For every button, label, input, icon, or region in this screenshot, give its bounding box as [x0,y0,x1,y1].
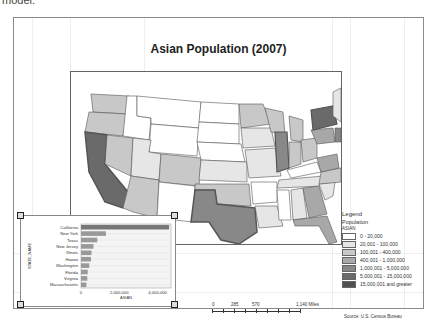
legend-row: 400,001 - 1,000,000 [342,256,412,264]
map-legend[interactable]: Legend Population ASIAN 0 - 20,00020,001… [342,211,412,288]
scale-tick [267,309,268,313]
legend-row: 0 - 20,000 [342,232,412,240]
source-text: Source: U.S. Census Bureau [344,314,402,319]
y-axis-label: STATE_NAME [27,243,32,269]
legend-label: 400,001 - 1,000,000 [360,257,405,263]
legend-row: 1,000,001 - 5,000,000 [342,264,412,272]
legend-swatch [342,257,356,264]
legend-row: 100,001 - 400,000 [342,248,412,256]
legend-label: 5,000,001 - 15,000,000 [360,273,412,279]
legend-swatch [342,273,356,280]
legend-label: 20,001 - 100,000 [360,241,398,247]
category-label: Florida [65,270,78,275]
legend-title: Legend [342,211,412,217]
category-label: Virginia [64,276,79,281]
state-michigan [289,116,303,142]
bar-new-york [81,231,106,236]
legend-label: 0 - 20,000 [360,233,383,239]
resize-handle-bottom-left[interactable] [17,301,24,308]
scale-label: 285 [231,302,239,307]
state-ohio [301,138,317,162]
legend-swatch [342,233,356,240]
legend-swatch [342,281,356,288]
scale-tick [212,309,213,313]
state-arkansas [251,182,277,204]
category-label: California [60,225,78,230]
scale-tick [300,309,301,313]
legend-label: 1,000,001 - 5,000,000 [360,265,409,271]
state-iowa [241,128,275,148]
graph-element[interactable]: CaliforniaNew YorkTexasNew JerseyIllinoi… [20,215,176,307]
scale-tick [278,309,279,313]
legend-label: 100,001 - 400,000 [360,249,401,255]
legend-swatch [342,249,356,256]
x-tick-label: 0 [80,290,83,295]
bar-new-jersey [81,244,93,249]
resize-handle-top-right[interactable] [171,212,178,219]
state-new-jersey [335,128,341,142]
scale-tick [223,309,224,313]
state-washington [91,94,129,114]
legend-field-name: ASIAN [342,226,412,231]
category-label: Illinois [66,250,78,255]
category-label: Hawaii [65,257,78,262]
category-label: Texas [67,238,78,243]
legend-layer-name: Population [342,219,412,225]
scale-tick [234,309,235,313]
bar-florida [81,270,88,275]
state-kansas [199,160,247,182]
scale-bar[interactable]: 0 285 570 1,140 Miles [212,302,302,314]
legend-row: 5,000,001 - 15,000,000 [342,272,412,280]
state-north-dakota [199,102,239,124]
state-wyoming [149,124,199,156]
state-minnesota [239,104,271,128]
bar-chart: CaliforniaNew YorkTexasNew JerseyIllinoi… [21,216,175,306]
scale-tick [289,309,290,313]
scale-label: 0 [212,302,215,307]
legend-swatch [342,265,356,272]
bar-hawaii [81,257,91,262]
resize-handle-bottom-right[interactable] [171,301,178,308]
state-mississippi [277,190,291,220]
category-label: New York [60,231,79,236]
category-label: New Jersey [56,244,79,249]
bar-virginia [81,276,87,281]
legend-row: 15,000,001 and greater [342,280,412,288]
resize-handle-top-left[interactable] [17,212,24,219]
state-florida [293,216,337,244]
x-axis-label: ASIAN [120,295,132,300]
state-south-dakota [197,122,239,144]
map-title: Asian Population (2007) [14,42,423,56]
top-text: model. [2,0,35,6]
scale-tick [256,309,257,313]
x-tick-label: 4,000,000 [148,290,167,295]
bar-texas [81,238,97,243]
state-indiana [289,142,301,168]
bar-washington [81,263,89,268]
scale-tick [245,309,246,313]
bar-illinois [81,251,92,256]
category-label: Washington [56,263,79,268]
legend-label: 15,000,001 and greater [360,281,412,287]
bar-massachusetts [81,283,86,288]
category-label: Massachusetts [50,282,78,287]
state-illinois [275,132,289,172]
scale-label: 1,140 Miles [296,302,319,307]
legend-row: 20,001 - 100,000 [342,240,412,248]
legend-swatch [342,241,356,248]
state-colorado [159,154,201,186]
bar-california [81,225,169,230]
state-nebraska [197,142,245,162]
state-arizona [123,176,159,218]
scale-label: 570 [252,302,260,307]
state-new-england [333,88,341,122]
